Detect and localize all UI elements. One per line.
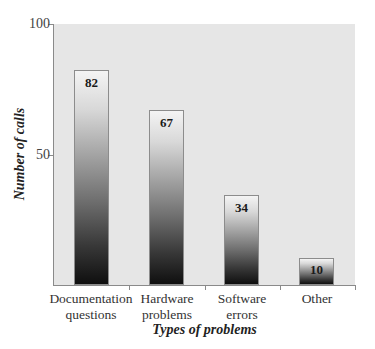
bar-value-label: 67	[150, 115, 183, 131]
category-line: Other	[272, 291, 362, 307]
y-tick-label-100: 100	[29, 16, 50, 32]
bar-value-label: 34	[225, 200, 258, 216]
x-axis-title: Types of problems	[54, 322, 355, 338]
bar-hardware-problems: 67	[149, 110, 184, 285]
y-axis-title: Number of calls	[12, 108, 28, 201]
y-tick-label-50: 50	[36, 147, 50, 163]
bar-value-label: 10	[300, 262, 333, 278]
bar-software-errors: 34	[224, 195, 259, 285]
bar-value-label: 82	[75, 75, 108, 91]
category-line: errors	[197, 307, 287, 323]
bar-other: 10	[299, 258, 334, 285]
y-axis	[53, 24, 54, 286]
bar-documentation-questions: 82	[74, 70, 109, 285]
x-tick	[205, 285, 206, 290]
x-tick	[280, 285, 281, 290]
x-tick	[129, 285, 130, 290]
x-tick	[355, 285, 356, 290]
x-category-label: Other	[272, 291, 362, 307]
